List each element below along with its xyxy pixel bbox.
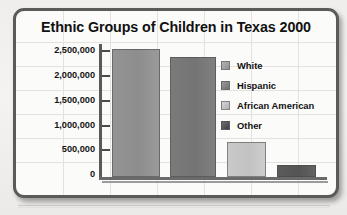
- y-axis-tick-label: 1,500,000: [54, 95, 95, 105]
- y-axis-tick: [102, 100, 110, 102]
- legend-label-african-american: African American: [237, 100, 314, 111]
- legend-item-hispanic[interactable]: Hispanic: [221, 75, 339, 95]
- chart-legend: White Hispanic African American Other: [221, 55, 339, 135]
- y-axis-tick: [102, 125, 110, 127]
- y-axis-tick-label: 500,000: [62, 144, 95, 154]
- chart-card: Ethnic Groups of Children in Texas 2000 …: [13, 8, 339, 198]
- legend-item-white[interactable]: White: [221, 55, 339, 75]
- scanned-page-background: Ethnic Groups of Children in Texas 2000 …: [0, 0, 347, 215]
- chart-title: Ethnic Groups of Children in Texas 2000: [16, 19, 336, 35]
- legend-label-hispanic: Hispanic: [237, 80, 276, 91]
- legend-item-african-american[interactable]: African American: [221, 95, 339, 115]
- legend-swatch-other-icon: [221, 121, 230, 130]
- gridline-horizontal: [16, 42, 336, 43]
- bar-hispanic[interactable]: [170, 57, 216, 177]
- y-axis-tick-label: 0: [90, 169, 95, 179]
- y-axis-tick: [102, 50, 110, 52]
- bar-african-american[interactable]: [227, 142, 266, 177]
- y-axis-tick: [102, 75, 110, 77]
- page-rule-secondary: [18, 207, 330, 208]
- y-axis-tick-label: 2,000,000: [54, 70, 95, 80]
- legend-label-other: Other: [237, 120, 262, 131]
- legend-label-white: White: [237, 60, 263, 71]
- x-axis-shadow: [102, 181, 328, 183]
- y-axis-labels: 2,500,000 2,000,000 1,500,000 1,000,000 …: [16, 44, 95, 180]
- y-axis-tick: [102, 149, 110, 151]
- bar-other[interactable]: [277, 165, 316, 177]
- y-axis-tick-label: 1,000,000: [54, 120, 95, 130]
- legend-swatch-african-american-icon: [221, 101, 230, 110]
- page-rule: [18, 205, 330, 206]
- bar-white[interactable]: [112, 49, 160, 177]
- legend-swatch-hispanic-icon: [221, 81, 230, 90]
- legend-item-other[interactable]: Other: [221, 115, 339, 135]
- y-axis-tick-label: 2,500,000: [54, 45, 95, 55]
- x-axis-line: [99, 177, 327, 180]
- chart-inner: Ethnic Groups of Children in Texas 2000 …: [16, 11, 336, 195]
- legend-swatch-white-icon: [221, 61, 230, 70]
- y-axis-line: [99, 44, 102, 180]
